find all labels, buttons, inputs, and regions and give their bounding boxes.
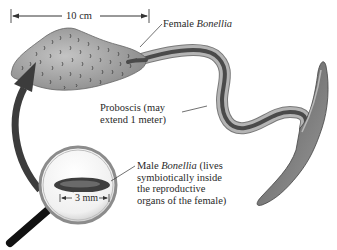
male-label-line2: symbiotically inside <box>137 172 226 184</box>
proboscis-label: Proboscis (may extend 1 meter) <box>100 102 166 125</box>
male-label-prefix: Male <box>137 160 161 171</box>
male-label-genus: Bonellia <box>161 160 197 171</box>
proboscis-label-line2: extend 1 meter) <box>100 114 166 126</box>
female-leader-line <box>140 24 162 47</box>
male-scale-label: 3 mm <box>74 192 99 204</box>
male-label-line3: the reproductive <box>137 183 226 195</box>
female-scale-label: 10 cm <box>66 10 92 22</box>
female-label-prefix: Female <box>163 18 197 29</box>
female-label: Female Bonellia <box>163 18 232 30</box>
male-label-line1: Male Bonellia (lives <box>137 160 226 172</box>
proboscis-fork <box>257 62 328 206</box>
bonellia-illustration <box>0 0 337 250</box>
proboscis-label-line1: Proboscis (may <box>100 102 166 114</box>
proboscis-leader-line <box>182 106 207 112</box>
male-label: Male Bonellia (lives symbiotically insid… <box>137 160 226 206</box>
male-label-suffix: (lives <box>197 160 223 171</box>
female-label-genus: Bonellia <box>197 18 233 29</box>
male-label-line4: organs of the female) <box>137 195 226 207</box>
magnifier-handle <box>10 210 48 243</box>
